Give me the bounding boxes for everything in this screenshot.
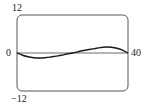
x-min-tick-label: 0 <box>6 48 11 58</box>
plot-area <box>0 0 142 107</box>
function-curve <box>17 47 128 58</box>
chart: 12 0 40 −12 <box>0 0 142 107</box>
x-max-tick-label: 40 <box>131 48 141 58</box>
y-max-tick-label: 12 <box>12 3 22 13</box>
y-min-tick-label: −12 <box>11 94 27 104</box>
